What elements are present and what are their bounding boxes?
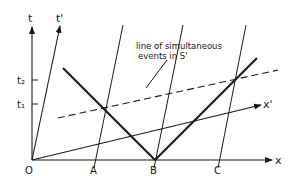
- annotation-line-1: line of simultaneous: [136, 41, 223, 51]
- worldline-c: [218, 25, 246, 168]
- point-a-label: A: [90, 165, 97, 176]
- x-axis-label: x: [275, 154, 282, 167]
- x-prime-axis-label: x': [263, 98, 273, 111]
- t-prime-axis: [32, 26, 60, 160]
- annotation-leader: [146, 60, 167, 88]
- diagram-canvas: t t' x x' O t₂ t₁ A B C line of simultan…: [0, 0, 300, 176]
- t-axis-label: t: [28, 12, 33, 25]
- origin-label: O: [25, 165, 33, 176]
- t1-label: t₁: [17, 99, 25, 110]
- point-c-label: C: [214, 165, 221, 176]
- light-signal-left: [63, 68, 155, 160]
- annotation-line-2: events in S': [138, 51, 188, 61]
- t2-label: t₂: [17, 75, 25, 86]
- light-signal-right: [155, 58, 257, 160]
- simultaneity-line: [58, 70, 278, 118]
- t-prime-axis-label: t': [56, 12, 63, 25]
- worldline-a: [94, 25, 123, 168]
- point-b-label: B: [150, 165, 157, 176]
- spacetime-diagram: t t' x x' O t₂ t₁ A B C line of simultan…: [0, 0, 300, 176]
